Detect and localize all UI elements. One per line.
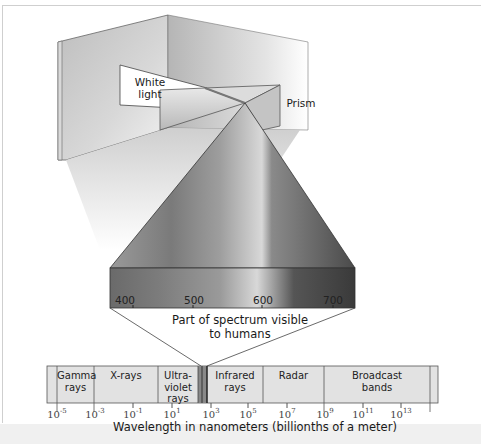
tick-exponent: 1 bbox=[176, 407, 180, 415]
segment-label-line: Radar bbox=[263, 370, 324, 382]
tick-exponent: 5 bbox=[252, 407, 256, 415]
tick-base: 10 bbox=[123, 409, 136, 420]
tick-1e3: 103 bbox=[202, 407, 219, 420]
tick-base: 10 bbox=[278, 409, 291, 420]
segment-label-line: Infrared bbox=[207, 370, 263, 382]
segment-label-line: Gamma bbox=[57, 370, 94, 382]
segment-infrared-rays: Infrared rays bbox=[207, 370, 263, 393]
segment-label-line: Broadcast bbox=[324, 370, 430, 382]
tick-exponent: 11 bbox=[365, 407, 374, 415]
tick-1e9: 109 bbox=[316, 407, 333, 420]
tick-1e-1: 10-1 bbox=[123, 407, 143, 420]
tick-1e5: 105 bbox=[239, 407, 256, 420]
segment-ultraviolet-rays: Ultra- violet rays bbox=[158, 370, 198, 405]
band-tick-600: 600 bbox=[253, 294, 273, 306]
band-tick-400: 400 bbox=[115, 294, 135, 306]
segment-gamma-rays: Gamma rays bbox=[57, 370, 94, 393]
tick-base: 10 bbox=[352, 409, 365, 420]
tick-exponent: 9 bbox=[329, 407, 333, 415]
tick-base: 10 bbox=[202, 409, 215, 420]
caption-line2: to humans bbox=[150, 327, 330, 341]
prism-label: Prism bbox=[283, 97, 319, 109]
segment-label-line: rays bbox=[158, 393, 198, 405]
tick-1e7: 107 bbox=[278, 407, 295, 420]
tick-exponent: -3 bbox=[98, 407, 105, 415]
caption-line1: Part of spectrum visible bbox=[150, 313, 330, 327]
white-light-line2: light bbox=[130, 88, 170, 100]
tick-exponent: -1 bbox=[136, 407, 143, 415]
white-light-label: White light bbox=[130, 76, 170, 100]
segment-radar: Radar bbox=[263, 370, 324, 382]
tick-1e13: 1013 bbox=[390, 407, 412, 420]
tick-exponent: -5 bbox=[60, 407, 67, 415]
segment-label-line: rays bbox=[207, 382, 263, 394]
tick-1e-3: 10-3 bbox=[85, 407, 105, 420]
tick-base: 10 bbox=[239, 409, 252, 420]
segment-label-line: rays bbox=[57, 382, 94, 394]
band-tick-700: 700 bbox=[323, 294, 343, 306]
tick-base: 10 bbox=[47, 409, 60, 420]
tick-1e1: 101 bbox=[163, 407, 180, 420]
tick-exponent: 7 bbox=[291, 407, 295, 415]
white-light-line1: White bbox=[130, 76, 170, 88]
segment-label-line: bands bbox=[324, 382, 430, 394]
visible-spectrum-caption: Part of spectrum visible to humans bbox=[150, 313, 330, 341]
tick-base: 10 bbox=[316, 409, 329, 420]
segment-label-line: violet bbox=[158, 382, 198, 394]
band-tick-500: 500 bbox=[184, 294, 204, 306]
tick-1e-5: 10-5 bbox=[47, 407, 67, 420]
segment-label-line: X-rays bbox=[94, 370, 158, 382]
tick-base: 10 bbox=[163, 409, 176, 420]
segment-label-line: Ultra- bbox=[158, 370, 198, 382]
tick-exponent: 3 bbox=[215, 407, 219, 415]
tick-base: 10 bbox=[390, 409, 403, 420]
tick-base: 10 bbox=[85, 409, 98, 420]
segment-x-rays: X-rays bbox=[94, 370, 158, 382]
tick-exponent: 13 bbox=[403, 407, 412, 415]
axis-title: Wavelength in nanometers (billionths of … bbox=[70, 420, 440, 434]
tick-1e11: 1011 bbox=[352, 407, 374, 420]
segment-broadcast-bands: Broadcast bands bbox=[324, 370, 430, 393]
